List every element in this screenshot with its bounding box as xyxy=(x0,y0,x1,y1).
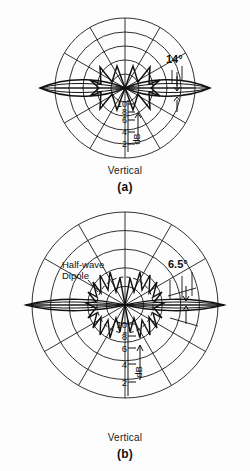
caption-a: Vertical (a) xyxy=(0,165,250,195)
polar-plot-a: 14° 10 8 6 4 2 dB xyxy=(0,0,250,165)
polar-chart-panel-a: 14° 10 8 6 4 2 dB Vertical (a) xyxy=(0,0,250,200)
db-tick-b-6: 6 xyxy=(122,343,127,354)
panel-label-b: (b) xyxy=(0,447,250,462)
db-tick-b-10: 10 xyxy=(116,319,127,330)
db-tick-b-4: 4 xyxy=(122,359,127,370)
polar-plot-a-svg: 14° 10 8 6 4 2 dB xyxy=(0,0,250,165)
db-tick-a-2: 2 xyxy=(122,139,127,149)
db-scale-labels-b: 10 8 6 4 2 xyxy=(116,319,127,388)
db-unit-label-b: dB xyxy=(133,366,144,378)
beamwidth-label-a: 14° xyxy=(166,53,183,65)
polar-plot-b: Half-wave Dipole 6.5° xyxy=(0,200,250,432)
beamwidth-annotation-a xyxy=(172,66,182,112)
caption-b: Vertical (b) xyxy=(0,432,250,462)
panel-label-a: (a) xyxy=(0,180,250,195)
db-tick-b-8: 8 xyxy=(122,331,127,342)
dipole-label-line1-b: Half-wave xyxy=(62,259,104,270)
db-tick-a-6: 6 xyxy=(122,115,127,125)
polar-plot-b-svg: Half-wave Dipole 6.5° xyxy=(0,200,250,432)
polar-chart-panel-b: Half-wave Dipole 6.5° xyxy=(0,200,250,471)
axis-label-b: Vertical xyxy=(0,432,250,445)
axis-label-a: Vertical xyxy=(0,165,250,178)
beamwidth-label-b: 6.5° xyxy=(168,258,188,270)
db-unit-label-a: dB xyxy=(132,133,142,144)
db-scale-labels-a: 10 8 6 4 2 xyxy=(117,99,127,149)
dipole-label-line2-b: Dipole xyxy=(62,270,89,281)
db-tick-a-4: 4 xyxy=(122,127,127,137)
db-tick-b-2: 2 xyxy=(122,377,127,388)
